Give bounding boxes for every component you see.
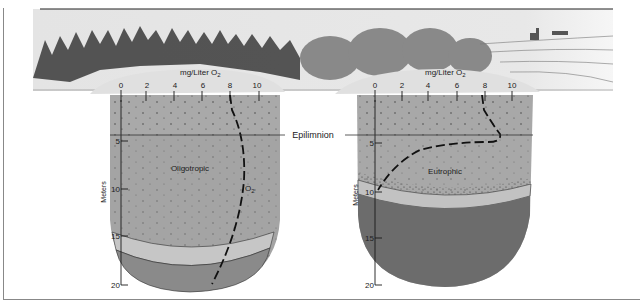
svg-text:10: 10 bbox=[365, 188, 374, 197]
svg-text:10: 10 bbox=[508, 81, 517, 90]
lake-diagram: Epilimnion mg/Liter O2 0 2 4 6 8 10 5 10… bbox=[0, 0, 640, 303]
eutro-y-axis-label: Meters bbox=[352, 184, 359, 206]
epilimnion-label: Epilimnion bbox=[292, 130, 334, 140]
eutrophic-label: Eutrophic bbox=[428, 167, 462, 176]
oligo-x-axis-label: mg/Liter O2 bbox=[180, 68, 221, 78]
svg-text:6: 6 bbox=[201, 81, 206, 90]
svg-text:8: 8 bbox=[483, 81, 488, 90]
svg-text:5: 5 bbox=[370, 139, 375, 148]
svg-text:2: 2 bbox=[400, 81, 405, 90]
eutro-x-axis-label: mg/Liter O2 bbox=[425, 68, 466, 78]
svg-text:0: 0 bbox=[373, 81, 378, 90]
svg-text:4: 4 bbox=[173, 81, 178, 90]
svg-text:6: 6 bbox=[455, 81, 460, 90]
svg-text:15: 15 bbox=[111, 232, 120, 241]
svg-text:2: 2 bbox=[145, 81, 150, 90]
svg-text:4: 4 bbox=[426, 81, 431, 90]
svg-text:10: 10 bbox=[111, 185, 120, 194]
svg-text:20: 20 bbox=[365, 281, 374, 290]
svg-text:0: 0 bbox=[119, 81, 124, 90]
svg-text:8: 8 bbox=[228, 81, 233, 90]
svg-text:5: 5 bbox=[116, 137, 121, 146]
oligotropic-label: Oligotropic bbox=[171, 164, 209, 173]
svg-text:20: 20 bbox=[111, 281, 120, 290]
oligo-y-axis-label: Meters bbox=[100, 181, 107, 203]
svg-text:15: 15 bbox=[365, 234, 374, 243]
svg-text:10: 10 bbox=[253, 81, 262, 90]
eutrophic-lake bbox=[357, 90, 533, 287]
